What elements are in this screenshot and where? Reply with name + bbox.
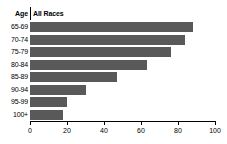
- bar: [30, 110, 63, 120]
- header-divider: [30, 7, 31, 20]
- category-label: 85-89: [0, 71, 28, 84]
- category-label: 90-94: [0, 84, 28, 97]
- x-axis-tick-labels: 020406080100: [30, 126, 215, 138]
- x-axis-tick-label: 60: [137, 126, 145, 136]
- bar-row: [30, 96, 215, 109]
- bar-row: [30, 71, 215, 84]
- x-axis-tick: [104, 121, 105, 125]
- bar-row: [30, 84, 215, 97]
- bar: [30, 85, 86, 95]
- x-axis-tick: [30, 121, 31, 125]
- category-axis-labels: 65-6970-7475-7980-8485-8990-9495-99100+: [0, 21, 28, 121]
- header-age-label: Age: [0, 8, 28, 19]
- bar-row: [30, 109, 215, 122]
- x-axis-tick: [141, 121, 142, 125]
- x-axis-tick-label: 20: [63, 126, 71, 136]
- x-axis-tick-label: 40: [100, 126, 108, 136]
- x-axis-tick-label: 80: [174, 126, 182, 136]
- x-axis-tick: [215, 121, 216, 125]
- bar: [30, 35, 185, 45]
- x-axis-tick: [67, 121, 68, 125]
- bar: [30, 22, 193, 32]
- category-label: 80-84: [0, 59, 28, 72]
- bar-row: [30, 59, 215, 72]
- x-axis-tick: [178, 121, 179, 125]
- plot-area: [30, 21, 215, 121]
- bar: [30, 60, 147, 70]
- category-label: 65-69: [0, 21, 28, 34]
- x-axis-tick-label: 0: [28, 126, 32, 136]
- bar: [30, 97, 67, 107]
- x-axis-tick-label: 100: [209, 126, 221, 136]
- bar-chart: Age All Races 65-6970-7475-7980-8485-899…: [0, 0, 227, 144]
- category-label: 100+: [0, 109, 28, 122]
- bar-row: [30, 46, 215, 59]
- category-label: 70-74: [0, 34, 28, 47]
- header-series-label: All Races: [33, 8, 64, 19]
- bar-row: [30, 34, 215, 47]
- chart-header: Age All Races: [0, 8, 227, 20]
- category-label: 95-99: [0, 96, 28, 109]
- bar-row: [30, 21, 215, 34]
- bar: [30, 72, 117, 82]
- bar: [30, 47, 171, 57]
- category-label: 75-79: [0, 46, 28, 59]
